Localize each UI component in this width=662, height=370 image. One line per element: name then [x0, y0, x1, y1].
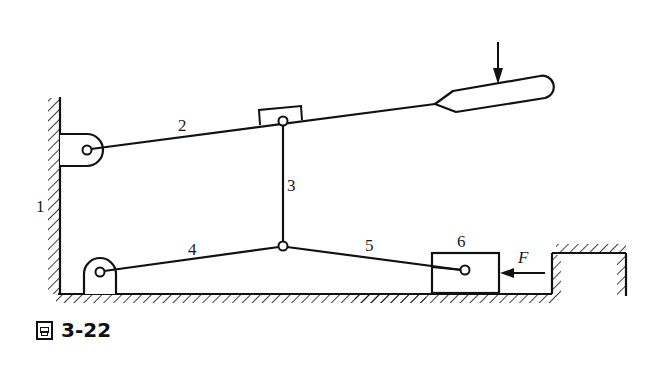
label-link-5: 5	[365, 236, 374, 255]
lower-pivot-bracket	[84, 258, 116, 294]
label-link-3: 3	[287, 176, 296, 195]
label-frame-1: 1	[36, 197, 45, 216]
links-4-5	[104, 242, 462, 272]
label-link-4: 4	[188, 240, 197, 259]
label-force-f: F	[517, 248, 529, 267]
figure-caption: 3-22	[36, 318, 111, 342]
figure-number: 3-22	[61, 318, 111, 342]
left-wall	[48, 97, 60, 294]
load-arrow	[493, 42, 503, 84]
slider-6	[432, 253, 499, 293]
upper-pivot-bracket	[60, 134, 103, 166]
linkage-diagram: 1 2 3 4 5 6 F	[0, 0, 662, 370]
label-slider-6: 6	[457, 232, 466, 251]
force-arrow	[500, 268, 545, 278]
link-2-lever	[91, 76, 554, 149]
figure-glyph-icon	[36, 321, 53, 340]
label-link-2: 2	[178, 116, 187, 135]
